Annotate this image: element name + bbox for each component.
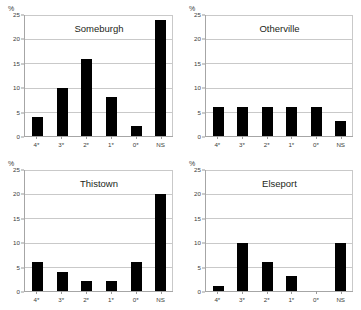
plot-area-wrapper: 0510152025Elseport	[189, 170, 353, 292]
x-axis-tick-label: 3*	[230, 294, 255, 306]
y-axis-tick-label: 0	[17, 289, 20, 295]
x-axis-tick-label: 1*	[98, 139, 123, 151]
bar-slot	[255, 15, 280, 136]
bar-slot	[74, 15, 99, 136]
y-axis-tick-label: 15	[194, 61, 201, 67]
y-axis-tick-label: 20	[13, 191, 20, 197]
x-axis: 4*3*2*1*0*NS	[24, 139, 173, 151]
bar-slot	[206, 15, 231, 136]
y-axis-tick-label: 10	[194, 240, 201, 246]
bar-slot	[124, 170, 149, 291]
y-axis-tick-label: 0	[17, 134, 20, 140]
y-axis: 0510152025	[8, 15, 24, 137]
x-axis-tick-label: 3*	[230, 139, 255, 151]
plot-area: Otherville	[205, 15, 353, 137]
y-axis-tick-label: 10	[13, 240, 20, 246]
x-axis-tick-label: 2*	[254, 139, 279, 151]
bar-series	[206, 15, 353, 136]
y-axis-tick-label: 20	[194, 191, 201, 197]
x-axis-tick-label: 4*	[24, 294, 49, 306]
x-axis-tick-label: 0*	[304, 139, 329, 151]
bar-series	[25, 170, 173, 291]
x-axis-tick-label: 4*	[205, 294, 230, 306]
chart-panel-thistown: %0510152025Thistown4*3*2*1*0*NS	[0, 155, 181, 310]
bar-slot	[148, 170, 173, 291]
x-axis-tick-label: 3*	[49, 139, 74, 151]
plot-area: Someburgh	[24, 15, 173, 137]
bar	[81, 59, 92, 136]
bar-slot	[25, 170, 50, 291]
bar-slot	[25, 15, 50, 136]
bar	[57, 88, 68, 136]
y-axis-tick-label: 15	[194, 216, 201, 222]
y-axis-tick-label: 15	[13, 216, 20, 222]
bar	[237, 243, 248, 291]
bar	[335, 121, 346, 136]
bar-slot	[206, 170, 231, 291]
bar-slot	[280, 15, 305, 136]
y-axis: 0510152025	[189, 15, 205, 137]
y-axis-tick-label: 10	[194, 85, 201, 91]
y-axis-tick-label: 20	[13, 36, 20, 42]
plot-area-wrapper: 0510152025Thistown	[8, 170, 173, 292]
bar	[335, 243, 346, 291]
bar-slot	[50, 170, 75, 291]
bar-slot	[124, 15, 149, 136]
x-axis-tick-label: 2*	[74, 139, 99, 151]
chart-panel-someburgh: %0510152025Someburgh4*3*2*1*0*NS	[0, 0, 181, 155]
bar	[32, 262, 43, 291]
bar-slot	[74, 170, 99, 291]
y-axis-tick-label: 5	[198, 264, 201, 270]
bar	[262, 262, 273, 291]
x-axis-tick-label: NS	[148, 294, 173, 306]
plot-area-wrapper: 0510152025Someburgh	[8, 15, 173, 137]
bar	[57, 272, 68, 291]
x-axis-tick-label: 1*	[279, 294, 304, 306]
bar	[286, 107, 297, 136]
plot-area-wrapper: 0510152025Otherville	[189, 15, 353, 137]
bar	[311, 107, 322, 136]
chart-grid: %0510152025Someburgh4*3*2*1*0*NS%0510152…	[0, 0, 361, 310]
plot-area: Thistown	[24, 170, 173, 292]
x-axis-tick-label: NS	[328, 139, 353, 151]
bar	[106, 97, 117, 136]
bar	[106, 281, 117, 291]
bar-slot	[148, 15, 173, 136]
bar-slot	[99, 170, 124, 291]
x-axis-tick-label: 0*	[123, 294, 148, 306]
y-axis-tick-label: 5	[17, 109, 20, 115]
x-axis: 4*3*2*1*0*NS	[205, 139, 353, 151]
bar	[213, 107, 224, 136]
bar	[32, 117, 43, 136]
y-axis-tick-label: 25	[13, 12, 20, 18]
bar-slot	[255, 170, 280, 291]
x-axis: 4*3*2*1*0*NS	[205, 294, 353, 306]
y-axis-tick-label: 25	[194, 167, 201, 173]
x-axis-tick-label: 3*	[49, 294, 74, 306]
x-axis-tick-label: 2*	[74, 294, 99, 306]
x-axis-tick-label: 1*	[98, 294, 123, 306]
y-axis: 0510152025	[189, 170, 205, 292]
chart-panel-otherville: %0510152025Otherville4*3*2*1*0*NS	[181, 0, 361, 155]
bar-series	[206, 170, 353, 291]
bar-slot	[304, 170, 329, 291]
x-axis-tick-label: 4*	[205, 139, 230, 151]
y-axis-tick-label: 10	[13, 85, 20, 91]
bar	[131, 126, 142, 136]
bar	[131, 262, 142, 291]
bar-series	[25, 15, 173, 136]
bar	[81, 281, 92, 291]
chart-panel-elseport: %0510152025Elseport4*3*2*1*0*NS	[181, 155, 361, 310]
bar	[262, 107, 273, 136]
x-axis-tick-label: 0*	[123, 139, 148, 151]
bar-slot	[231, 15, 256, 136]
x-axis-tick-label: NS	[328, 294, 353, 306]
bar-slot	[329, 170, 354, 291]
y-axis-tick-label: 25	[13, 167, 20, 173]
x-axis-tick-label: 2*	[254, 294, 279, 306]
y-axis-tick-label: 20	[194, 36, 201, 42]
bar-slot	[50, 15, 75, 136]
x-axis-tick-label: 1*	[279, 139, 304, 151]
y-axis-tick-label: 25	[194, 12, 201, 18]
bar-slot	[304, 15, 329, 136]
